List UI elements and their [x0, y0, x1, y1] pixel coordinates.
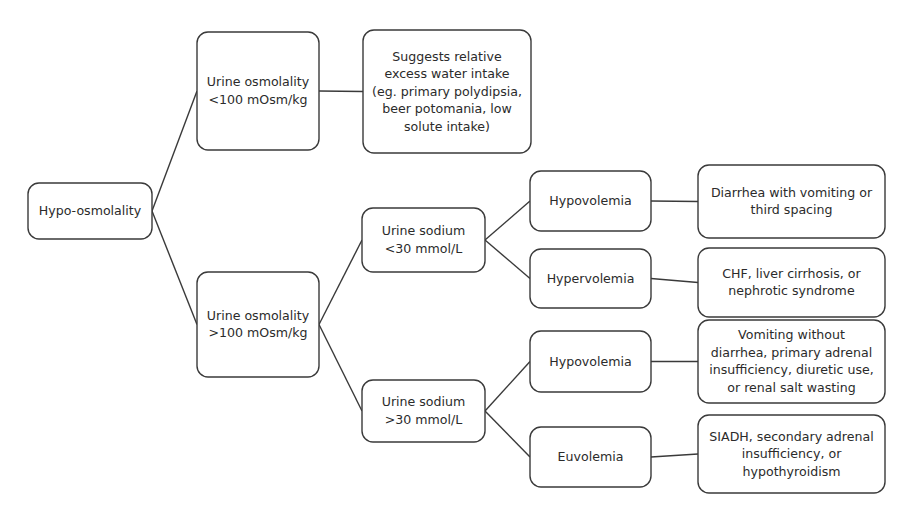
node-label-hypovolemia-high-sodium: Hypovolemia	[549, 353, 632, 368]
node-diarrhea-vomiting-third-spacing[interactable]: Diarrhea with vomiting orthird spacing	[698, 165, 885, 238]
node-siadh-adrenal-hypothyroidism[interactable]: SIADH, secondary adrenalinsufficiency, o…	[698, 415, 885, 493]
edge-urine-osm-low-to-excess-water	[319, 91, 363, 92]
edge-urine-osm-high-to-sodium-high	[319, 325, 362, 412]
node-root[interactable]: Hypo-osmolality	[28, 183, 152, 239]
edge-hypervolemia-to-chf	[651, 279, 698, 283]
node-hypovolemia-high-sodium[interactable]: Hypovolemia	[530, 331, 651, 392]
edge-hypovolemia-to-diarrhea	[651, 201, 698, 202]
node-urine-osmolality-high[interactable]: Urine osmolality>100 mOsm/kg	[197, 272, 319, 377]
node-label-hypervolemia: Hypervolemia	[547, 270, 635, 285]
node-hypervolemia[interactable]: Hypervolemia	[530, 249, 651, 308]
node-urine-sodium-high[interactable]: Urine sodium>30 mmol/L	[362, 380, 485, 442]
node-vomiting-adrenal-diuretic-salt-wasting[interactable]: Vomiting withoutdiarrhea, primary adrena…	[698, 320, 885, 403]
flowchart-canvas: Hypo-osmolalityUrine osmolality<100 mOsm…	[0, 0, 913, 522]
edge-sodium-low-to-hypervolemia	[485, 240, 530, 279]
node-chf-cirrhosis-nephrotic[interactable]: CHF, liver cirrhosis, ornephrotic syndro…	[698, 248, 885, 317]
node-urine-sodium-low[interactable]: Urine sodium<30 mmol/L	[362, 208, 485, 272]
edge-sodium-high-to-hypovolemia	[485, 362, 530, 412]
edge-sodium-low-to-hypovolemia	[485, 201, 530, 240]
node-label-euvolemia: Euvolemia	[558, 449, 624, 464]
flowchart-svg: Hypo-osmolalityUrine osmolality<100 mOsm…	[0, 0, 913, 522]
edge-urine-osm-high-to-sodium-low	[319, 240, 362, 325]
node-euvolemia[interactable]: Euvolemia	[530, 427, 651, 487]
edge-sodium-high-to-euvolemia	[485, 411, 530, 457]
node-label-root: Hypo-osmolality	[39, 203, 142, 218]
edge-euvolemia-to-siadh	[651, 454, 698, 457]
node-suggests-excess-water-intake[interactable]: Suggests relativeexcess water intake(eg.…	[363, 30, 531, 153]
node-label-hypovolemia-low-sodium: Hypovolemia	[549, 193, 632, 208]
node-urine-osmolality-low[interactable]: Urine osmolality<100 mOsm/kg	[197, 32, 319, 150]
edge-root-to-urine-osm-low	[152, 91, 197, 211]
node-hypovolemia-low-sodium[interactable]: Hypovolemia	[530, 171, 651, 231]
nodes-layer: Hypo-osmolalityUrine osmolality<100 mOsm…	[28, 30, 885, 493]
edge-root-to-urine-osm-high	[152, 211, 197, 325]
